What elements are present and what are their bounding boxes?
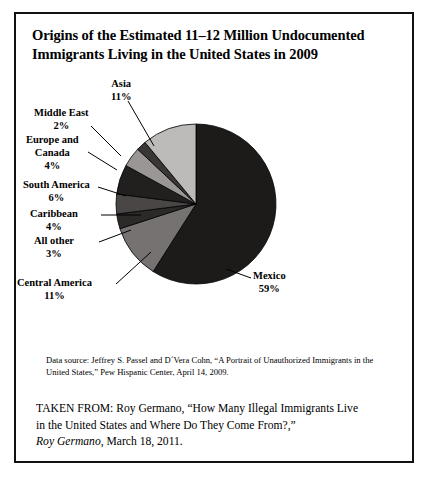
pie-label-central-america: Central America 11%: [17, 277, 92, 303]
figure-title-line-1: Origins of the Estimated 11–12 Million U…: [32, 26, 400, 45]
leader-line-central-america: [116, 252, 151, 284]
leader-line-middle-east: [91, 126, 121, 156]
pie-label-asia: Asia 11%: [111, 78, 131, 104]
pie-label-europe-canada-name-2: Canada: [26, 147, 79, 160]
pie-label-central-america-pct: 11%: [17, 290, 92, 303]
figure-frame: Origins of the Estimated 11–12 Million U…: [14, 12, 414, 463]
pie-label-middle-east: Middle East 2%: [34, 107, 89, 133]
pie-label-middle-east-pct: 2%: [34, 120, 89, 133]
pie-label-mexico: Mexico 59%: [253, 270, 286, 296]
pie-label-mexico-pct: 59%: [253, 283, 286, 296]
pie-label-caribbean: Caribbean 4%: [30, 208, 78, 234]
figure-title-line-2: Immigrants Living in the United States i…: [32, 45, 400, 64]
data-source-note: Data source: Jeffrey S. Passel and D´Ver…: [46, 354, 394, 378]
pie-label-mexico-name: Mexico: [253, 270, 286, 281]
pie-label-central-america-name: Central America: [17, 277, 92, 288]
pie-label-asia-pct: 11%: [111, 91, 131, 104]
taken-from-author: Roy Germano: [36, 435, 101, 448]
pie-label-south-america-pct: 6%: [23, 192, 90, 205]
pie-label-europe-canada-name: Europe and: [26, 134, 79, 145]
taken-from-line-3: Roy Germano, March 18, 2011.: [36, 434, 398, 451]
taken-from-date: , March 18, 2011.: [101, 435, 183, 448]
pie-label-caribbean-pct: 4%: [30, 221, 78, 234]
pie-label-all-other: All other 3%: [34, 235, 74, 261]
leader-line-asia: [128, 101, 154, 146]
taken-from-line-1: TAKEN FROM: Roy Germano, “How Many Illeg…: [36, 401, 398, 418]
taken-from-note: TAKEN FROM: Roy Germano, “How Many Illeg…: [36, 401, 398, 451]
leader-line-europe-canada: [88, 152, 117, 170]
pie-label-caribbean-name: Caribbean: [30, 208, 78, 219]
pie-label-europe-canada-pct: 4%: [26, 160, 79, 173]
pie-label-europe-canada: Europe and Canada 4%: [26, 134, 79, 172]
figure-title: Origins of the Estimated 11–12 Million U…: [32, 26, 400, 64]
pie-slices-group: [116, 124, 276, 284]
pie-label-south-america: South America 6%: [23, 179, 90, 205]
taken-from-line-2: in the United States and Where Do They C…: [36, 418, 398, 435]
pie-label-south-america-name: South America: [23, 179, 90, 190]
pie-label-asia-name: Asia: [111, 78, 131, 89]
pie-label-middle-east-name: Middle East: [34, 107, 89, 118]
pie-chart: Asia 11% Middle East 2% Europe and Canad…: [16, 72, 412, 344]
pie-label-all-other-pct: 3%: [34, 248, 74, 261]
pie-label-all-other-name: All other: [34, 235, 74, 246]
